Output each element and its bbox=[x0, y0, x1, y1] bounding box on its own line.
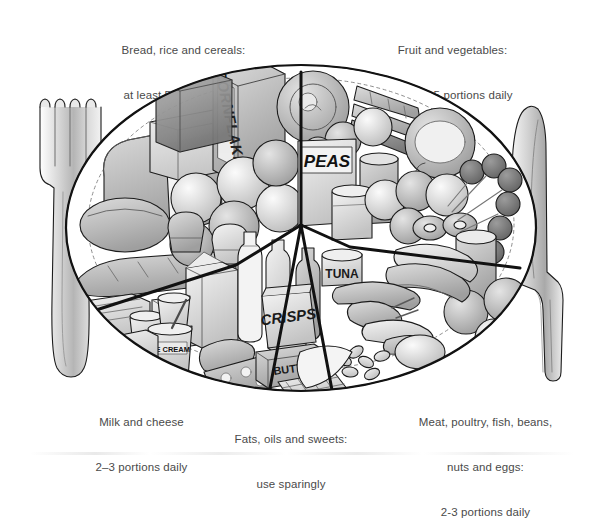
tuna-can: TUNA bbox=[322, 249, 362, 286]
label-meat-line3: 2-3 portions daily bbox=[378, 505, 593, 520]
label-fats-line2: use sparingly bbox=[196, 477, 386, 492]
label-meat-line2: nuts and eggs: bbox=[378, 460, 593, 475]
peas-label: PEAS bbox=[304, 152, 351, 171]
tuna-label: TUNA bbox=[325, 267, 359, 281]
page-scan-artifact bbox=[30, 452, 575, 455]
